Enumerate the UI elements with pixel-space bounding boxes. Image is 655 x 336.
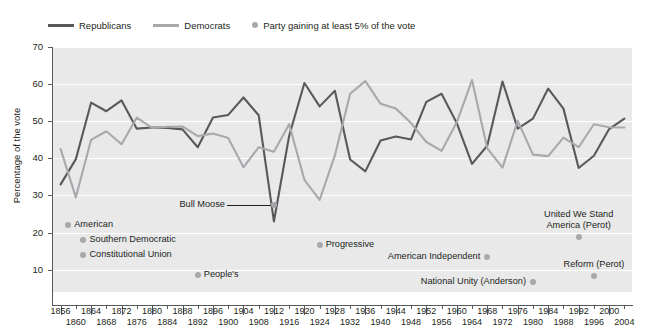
- annot-peoples: People's: [204, 269, 239, 280]
- annot-american: American: [74, 219, 113, 230]
- series-line-republicans: [61, 82, 625, 222]
- annot-united-we-stand: United We StandAmerica (Perot): [509, 209, 649, 231]
- annot-american-independent-dot: [484, 254, 490, 260]
- annot-bull-moose-dot: [271, 202, 277, 208]
- annot-united-we-stand-dot: [576, 234, 582, 240]
- annot-reform-perot-dot: [591, 273, 597, 279]
- annot-constitutional-union: Constitutional Union: [89, 249, 171, 260]
- annot-national-unity: National Unity (Anderson): [283, 276, 526, 287]
- annot-reform-perot: Reform (Perot): [524, 259, 655, 270]
- annot-bull-moose-leader-line: [227, 205, 271, 206]
- annot-reform-perot-line-0: Reform (Perot): [524, 259, 655, 270]
- annot-southern-democratic: Southern Democratic: [89, 234, 175, 245]
- annot-united-we-stand-line-1: America (Perot): [509, 220, 649, 231]
- annot-bull-moose: Bull Moose: [169, 199, 225, 210]
- annot-progressive: Progressive: [326, 239, 375, 250]
- annot-american-independent: American Independent: [237, 251, 480, 262]
- series-line-democrats: [61, 80, 625, 200]
- annot-progressive-dot: [317, 242, 323, 248]
- vote-percentage-chart: Republicans Democrats Party gaining at l…: [0, 0, 655, 336]
- annot-united-we-stand-line-0: United We Stand: [509, 209, 649, 220]
